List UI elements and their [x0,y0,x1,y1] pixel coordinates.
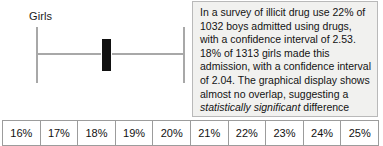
axis-tick-cell: 23% [266,121,304,146]
axis-tick-cell: 17% [40,121,78,146]
axis-tick-cell: 16% [3,121,41,146]
axis-tick-cell: 25% [341,121,379,146]
axis-tick-cell: 20% [153,121,191,146]
annotation-emphasis: statistically significant [200,101,300,113]
confidence-interval-lower-cap [36,27,38,83]
axis-tick-cell: 24% [303,121,341,146]
axis-tick-cell: 22% [228,121,266,146]
confidence-interval-upper-cap [183,27,185,83]
axis-tick-row: 16% 17% 18% 19% 20% 21% 22% 23% 24% 25% [3,121,379,146]
annotation-paragraph: In a survey of illicit drug use 22% of 1… [200,6,371,117]
point-estimate-marker [101,38,112,72]
axis-tick-cell: 18% [78,121,116,146]
axis-scale-table: 16% 17% 18% 19% 20% 21% 22% 23% 24% 25% [2,120,379,146]
confidence-interval-chart: Girls [0,0,190,118]
annotation-text-part1: In a survey of illicit drug use 22% of 1… [200,6,371,100]
series-label-girls: Girls [29,10,52,22]
annotation-textbox: In a survey of illicit drug use 22% of 1… [192,1,378,117]
axis-tick-cell: 19% [115,121,153,146]
axis-tick-cell: 21% [190,121,228,146]
